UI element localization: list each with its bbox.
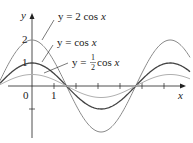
annotation-2cos-pointer <box>42 20 54 40</box>
annotation-halfcos-den: 2 <box>91 63 95 72</box>
annotation-halfcos-num: 1 <box>91 53 95 62</box>
annotation-cos: y = cos x <box>57 36 97 48</box>
annotation-2cos: y = 2 cos x <box>58 10 106 22</box>
tick-label-y2: 2 <box>22 33 28 45</box>
x-axis-arrow-icon <box>180 84 186 89</box>
y-axis-arrow-icon <box>30 13 35 19</box>
annotation-halfcos: y = <box>72 56 86 68</box>
x-axis-label: x <box>177 89 183 101</box>
annotation-halfcos-rest: cos x <box>97 56 119 68</box>
tick-label-x1: 1 <box>51 89 57 101</box>
tick-label-y1: 1 <box>22 56 28 68</box>
y-axis-label: y <box>20 9 26 21</box>
cosine-chart: y x 0 1 1 2 y = 2 cos x y = cos x y = 1 … <box>0 0 193 143</box>
tick-label-0: 0 <box>23 89 29 101</box>
annotation-cos-pointer <box>42 45 53 62</box>
